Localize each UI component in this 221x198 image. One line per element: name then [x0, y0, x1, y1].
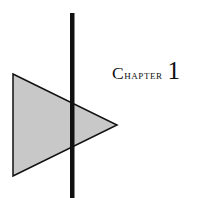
chapter-decoration-graphic — [0, 0, 221, 198]
chapter-label: Chapter — [112, 67, 163, 82]
chapter-opener-page: Chapter1 — [0, 0, 221, 198]
gray-triangle-icon — [13, 74, 117, 176]
chapter-heading: Chapter1 — [112, 58, 180, 83]
chapter-number: 1 — [168, 57, 181, 84]
chapter-label-first-letter: C — [112, 63, 124, 83]
chapter-label-rest: hapter — [124, 67, 162, 82]
vertical-black-rule-icon — [70, 13, 75, 198]
